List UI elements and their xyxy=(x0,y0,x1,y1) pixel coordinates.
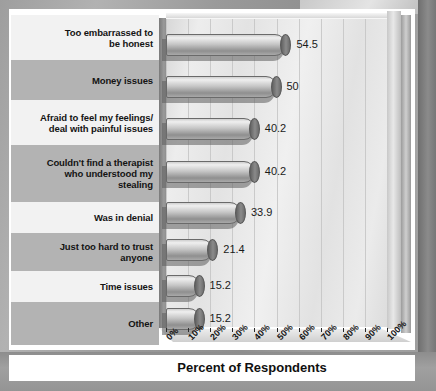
bar xyxy=(166,239,213,261)
category-label-band: Couldn't find a therapistwho understood … xyxy=(11,145,159,202)
chart-card: Too embarrassed tobe honestMoney issuesA… xyxy=(9,9,415,350)
bar-body xyxy=(166,161,255,183)
category-label-text: Just too hard to trustanyone xyxy=(60,241,153,263)
bar-body xyxy=(166,118,255,140)
category-label-band: Time issues xyxy=(11,271,159,302)
plot-wall-right-face xyxy=(387,11,401,329)
bar-body xyxy=(166,76,277,98)
category-label-text: Money issues xyxy=(92,75,153,86)
bar-value-label: 40.2 xyxy=(265,122,286,134)
bar-end-cap xyxy=(271,76,282,98)
category-label-band: Too embarrassed tobe honest xyxy=(11,15,159,60)
bar xyxy=(166,275,200,297)
bar-end-cap xyxy=(249,118,260,140)
bar-end-cap xyxy=(249,161,260,183)
category-label-band: Afraid to feel my feelings/deal with pai… xyxy=(11,100,159,145)
gridline xyxy=(299,19,300,329)
bar-value-label: 40.2 xyxy=(265,165,286,177)
bar-body xyxy=(166,239,213,261)
bar-value-label: 54.5 xyxy=(296,38,317,50)
chart-scene-background: Too embarrassed tobe honestMoney issuesA… xyxy=(0,0,436,391)
bar xyxy=(166,202,241,224)
bar-value-label: 15.2 xyxy=(210,279,231,291)
category-label-column: Too embarrassed tobe honestMoney issuesA… xyxy=(11,12,159,342)
category-label-band: Money issues xyxy=(11,60,159,100)
category-label-text: Couldn't find a therapistwho understood … xyxy=(47,157,153,190)
bar-end-cap xyxy=(194,275,205,297)
bar xyxy=(166,161,255,183)
bar-value-label: 50 xyxy=(287,80,299,92)
category-label-text: Too embarrassed tobe honest xyxy=(65,27,153,49)
bar xyxy=(166,34,286,56)
bar-end-cap xyxy=(235,202,246,224)
bar-body xyxy=(166,202,241,224)
gridline xyxy=(321,19,322,329)
x-axis-title: Percent of Respondents xyxy=(9,358,415,378)
bar-value-label: 21.4 xyxy=(223,243,244,255)
bar-body xyxy=(166,34,286,56)
category-label-text: Time issues xyxy=(100,281,153,292)
plot-wall-right-edge xyxy=(401,15,411,333)
bar xyxy=(166,76,277,98)
category-label-text: Was in denial xyxy=(94,212,153,223)
gridline xyxy=(365,19,366,329)
category-label-text: Other xyxy=(128,318,153,329)
gridline xyxy=(343,19,344,329)
category-label-band: Was in denial xyxy=(11,202,159,233)
bar-value-label: 33.9 xyxy=(251,206,272,218)
category-label-text: Afraid to feel my feelings/deal with pai… xyxy=(40,112,153,134)
category-label-band: Just too hard to trustanyone xyxy=(11,233,159,271)
bar xyxy=(166,118,255,140)
